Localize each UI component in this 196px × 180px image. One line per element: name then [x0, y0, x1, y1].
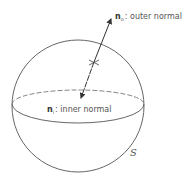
sphere-diagram: no: outer normal ni: inner normal S: [0, 0, 196, 180]
outer-normal-label: no: outer normal: [115, 12, 182, 22]
outer-normal-arrow: [94, 19, 111, 62]
inner-normal-label: ni: inner normal: [47, 105, 111, 115]
surface-label: S: [130, 147, 137, 158]
inner-normal-arrow: [81, 62, 94, 98]
equator-back: [12, 90, 144, 104]
